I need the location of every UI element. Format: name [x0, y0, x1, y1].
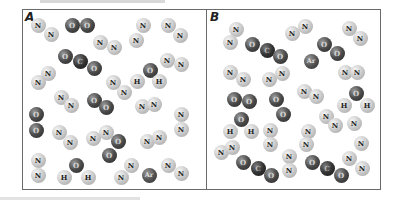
atom-c: C	[73, 54, 88, 69]
atom-n: N	[354, 136, 369, 151]
bottom-edge-bar	[0, 197, 140, 200]
atom-h: H	[337, 98, 352, 113]
atom-n: N	[223, 35, 238, 50]
panel-label-b: B	[210, 10, 219, 24]
atom-h: H	[152, 74, 167, 89]
atom-h: H	[130, 74, 145, 89]
atom-n: N	[64, 98, 79, 113]
atom-o: O	[29, 107, 44, 122]
atom-o: O	[58, 49, 73, 64]
atom-o: O	[65, 18, 80, 33]
atom-n: N	[31, 18, 46, 33]
atom-c: C	[320, 161, 335, 176]
atom-n: N	[328, 118, 343, 133]
atom-n: N	[107, 40, 122, 55]
atom-o: O	[242, 94, 257, 109]
atom-n: N	[114, 170, 129, 185]
atom-n: N	[160, 53, 175, 68]
atom-n: N	[129, 33, 144, 48]
atom-o: O	[245, 37, 260, 52]
atom-n: N	[41, 66, 56, 81]
atom-ar: Ar	[142, 168, 157, 183]
atom-o: O	[317, 37, 332, 52]
atom-n: N	[174, 166, 189, 181]
atom-n: N	[263, 123, 278, 138]
atom-ar: Ar	[304, 54, 319, 69]
atom-n: N	[136, 18, 151, 33]
atom-n: N	[147, 97, 162, 112]
atom-n: N	[31, 168, 46, 183]
atom-h: H	[223, 124, 238, 139]
atom-o: O	[334, 168, 349, 183]
atom-o: O	[236, 155, 251, 170]
atom-n: N	[298, 19, 313, 34]
atom-o: O	[305, 155, 320, 170]
atom-n: N	[174, 57, 189, 72]
atom-n: N	[117, 85, 132, 100]
atom-n: N	[174, 107, 189, 122]
atom-n: N	[31, 153, 46, 168]
atom-o: O	[80, 18, 95, 33]
atom-n: N	[124, 158, 139, 173]
atom-n: N	[93, 35, 108, 50]
atom-n: N	[347, 116, 362, 131]
atom-n: N	[353, 31, 368, 46]
atom-o: O	[269, 92, 284, 107]
atom-n: N	[282, 149, 297, 164]
atom-o: O	[111, 134, 126, 149]
atom-n: N	[236, 72, 251, 87]
atom-o: O	[264, 168, 279, 183]
atom-o: O	[69, 158, 84, 173]
atom-n: N	[309, 89, 324, 104]
atom-n: N	[44, 27, 59, 42]
atom-o: O	[227, 92, 242, 107]
atom-n: N	[299, 137, 314, 152]
atom-n: N	[350, 65, 365, 80]
atom-o: O	[234, 112, 249, 127]
atom-o: O	[29, 123, 44, 138]
atom-n: N	[275, 66, 290, 81]
atom-n: N	[263, 137, 278, 152]
atom-n: N	[161, 18, 176, 33]
atom-n: N	[355, 161, 370, 176]
atom-o: O	[349, 86, 364, 101]
top-edge-bar	[40, 0, 165, 3]
atom-n: N	[161, 158, 176, 173]
atom-h: H	[57, 170, 72, 185]
atom-n: N	[152, 130, 167, 145]
atom-h: H	[244, 124, 259, 139]
atom-n: N	[174, 122, 189, 137]
atom-o: O	[87, 61, 102, 76]
atom-n: N	[342, 151, 357, 166]
atom-h: H	[360, 98, 375, 113]
atom-o: O	[276, 107, 291, 122]
atom-h: H	[81, 170, 96, 185]
atom-n: N	[173, 28, 188, 43]
atom-n: N	[63, 135, 78, 150]
panel-divider	[206, 9, 207, 190]
atom-o: O	[273, 49, 288, 64]
atom-o: O	[102, 148, 117, 163]
atom-n: N	[225, 140, 240, 155]
atom-o: O	[99, 100, 114, 115]
atom-n: N	[282, 163, 297, 178]
atom-o: O	[330, 46, 345, 61]
